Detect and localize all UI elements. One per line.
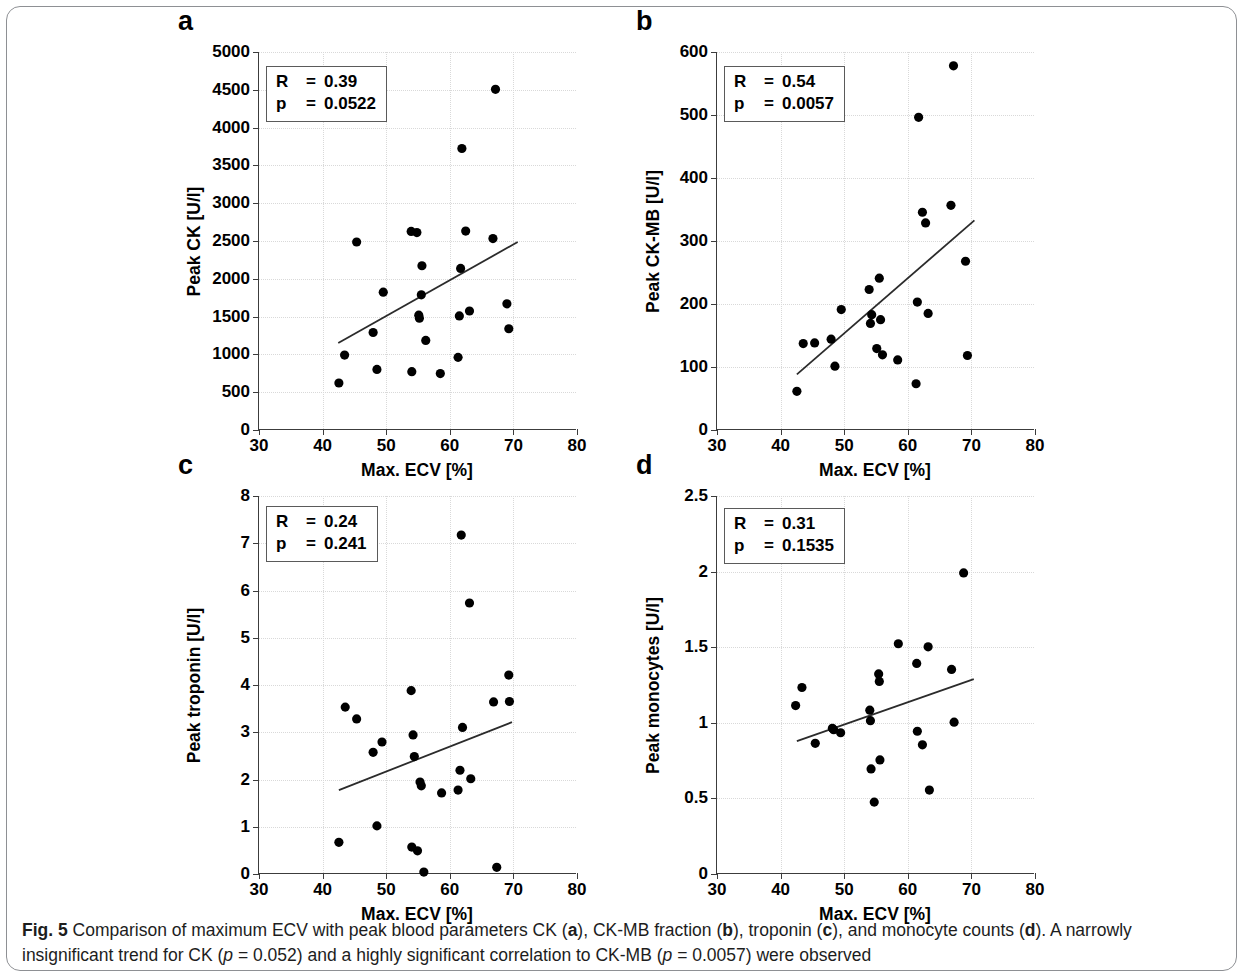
panel-d: d00.511.522.5304050607080R=0.31p=0.1535P… — [628, 452, 1108, 902]
x-axis-tick-label: 40 — [771, 880, 790, 900]
y-axis-tick-label: 3000 — [212, 193, 250, 213]
y-axis-tick-label: 200 — [680, 294, 708, 314]
data-point — [837, 305, 846, 314]
stats-annotation-box-d: R=0.31p=0.1535 — [724, 508, 845, 564]
data-point — [791, 701, 800, 710]
data-point — [340, 351, 349, 360]
data-point — [334, 838, 343, 847]
panel-letter-c: c — [178, 452, 193, 479]
x-axis-tick-label: 80 — [1026, 880, 1045, 900]
data-point — [924, 642, 933, 651]
pvalue-row: p=0.0522 — [276, 93, 376, 115]
x-axis-tick-label: 60 — [440, 880, 459, 900]
y-axis-label-b: Peak CK-MB [U/l] — [642, 52, 664, 430]
data-point — [913, 727, 922, 736]
p-value: 0.1535 — [782, 536, 834, 555]
y-axis-tick-label: 400 — [680, 168, 708, 188]
caption-ref-b: b — [722, 920, 733, 940]
caption-ref-c: c — [822, 920, 832, 940]
data-point — [417, 261, 426, 270]
data-point — [911, 379, 920, 388]
x-axis-tick — [513, 873, 514, 879]
data-point — [799, 339, 808, 348]
regression-line — [797, 679, 974, 741]
data-point — [946, 201, 955, 210]
p-value: 0.0057 — [782, 94, 834, 113]
data-point — [504, 324, 513, 333]
data-point — [963, 351, 972, 360]
panel-letter-b: b — [636, 8, 653, 35]
p-label: p — [734, 93, 764, 115]
x-axis-tick-label: 50 — [377, 880, 396, 900]
data-point — [504, 670, 513, 679]
p-label: p — [734, 535, 764, 557]
data-point — [505, 697, 514, 706]
data-point — [412, 228, 421, 237]
panel-letter-d: d — [636, 452, 653, 479]
data-point — [415, 314, 424, 323]
data-point — [918, 740, 927, 749]
caption-text-6: = 0.052) and a highly significant correl… — [233, 945, 662, 965]
x-axis-tick — [577, 873, 578, 879]
r-equals-sign: = — [764, 71, 782, 93]
panel-a: a050010001500200025003000350040004500500… — [170, 8, 650, 458]
data-point — [352, 714, 361, 723]
y-axis-tick-label: 1 — [699, 713, 708, 733]
data-point — [893, 355, 902, 364]
y-axis-tick-label: 8 — [241, 486, 250, 506]
x-axis-tick — [577, 429, 578, 435]
x-axis-tick-label: 60 — [898, 880, 917, 900]
data-point — [453, 353, 462, 362]
y-axis-tick-label: 5 — [241, 628, 250, 648]
data-point — [457, 144, 466, 153]
data-point — [407, 686, 416, 695]
r-label: R — [276, 71, 306, 93]
data-point — [866, 319, 875, 328]
correlation-row: R=0.31 — [734, 513, 834, 535]
y-axis-label-text: Peak monocytes [U/l] — [643, 597, 664, 774]
data-point — [947, 665, 956, 674]
data-point — [894, 639, 903, 648]
y-axis-tick-label: 4 — [241, 675, 250, 695]
caption-text-7: = 0.0057) were observed — [672, 945, 871, 965]
y-axis-label-text: Peak troponin [U/l] — [185, 607, 206, 763]
data-point — [870, 798, 879, 807]
y-axis-tick-label: 1 — [241, 817, 250, 837]
y-axis-tick-label: 2500 — [212, 231, 250, 251]
data-point — [875, 274, 884, 283]
data-point — [878, 350, 887, 359]
pvalue-row: p=0.1535 — [734, 535, 834, 557]
data-point — [461, 226, 470, 235]
data-point — [866, 764, 875, 773]
data-point — [377, 737, 386, 746]
x-axis-tick-label: 70 — [962, 880, 981, 900]
data-point — [417, 290, 426, 299]
data-point — [466, 774, 475, 783]
panel-b: b0100200300400500600304050607080R=0.54p=… — [628, 8, 1108, 458]
data-point — [913, 297, 922, 306]
x-axis-tick-label: 30 — [708, 880, 727, 900]
x-axis-tick-label: 40 — [313, 880, 332, 900]
data-point — [410, 752, 419, 761]
data-point — [417, 781, 426, 790]
stats-annotation-box-c: R=0.24p=0.241 — [266, 506, 378, 562]
y-axis-tick-label: 4500 — [212, 80, 250, 100]
data-point — [811, 739, 820, 748]
y-axis-label-d: Peak monocytes [U/l] — [642, 496, 664, 874]
data-point — [959, 568, 968, 577]
x-axis-tick — [323, 429, 324, 435]
r-label: R — [734, 513, 764, 535]
correlation-row: R=0.39 — [276, 71, 376, 93]
p-equals-sign: = — [764, 93, 782, 115]
data-point — [875, 755, 884, 764]
data-point — [455, 766, 464, 775]
caption-text-2: ), CK-MB fraction ( — [577, 920, 722, 940]
data-point — [925, 785, 934, 794]
y-axis-tick-label: 3500 — [212, 155, 250, 175]
y-axis-tick-label: 0.5 — [684, 788, 708, 808]
y-axis-label-c: Peak troponin [U/l] — [184, 496, 206, 874]
p-equals-sign: = — [306, 533, 324, 555]
data-point — [488, 234, 497, 243]
data-point — [865, 706, 874, 715]
r-label: R — [734, 71, 764, 93]
